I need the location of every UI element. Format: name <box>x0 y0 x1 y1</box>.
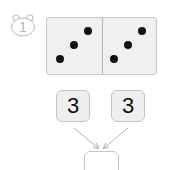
number-box-right: 3 <box>111 90 145 122</box>
arrow-right <box>104 128 128 148</box>
answer-box[interactable] <box>84 151 119 170</box>
number-box-left: 3 <box>56 90 90 122</box>
arrow-left <box>74 128 98 148</box>
arrows <box>0 0 169 170</box>
